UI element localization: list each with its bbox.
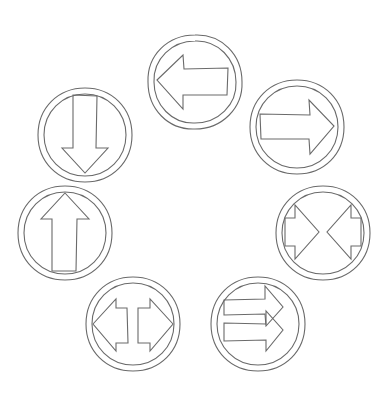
right-arrow-sign: Right arrow <box>247 77 347 177</box>
arrow-signs-diagram: Left arrow Right arrow Converging arrows… <box>0 0 390 398</box>
converging-arrows-icon <box>273 183 373 283</box>
up-arrow-icon <box>15 183 115 283</box>
down-arrow-sign: Down arrow <box>35 85 135 185</box>
double-right-arrows-sign: Two right arrows <box>208 274 308 374</box>
diverging-arrows-sign: Diverging arrows <box>83 274 183 374</box>
left-arrow-icon <box>145 32 245 132</box>
double-right-arrows-icon <box>208 274 308 374</box>
down-arrow-icon <box>35 85 135 185</box>
right-arrow-icon <box>247 77 347 177</box>
diverging-arrows-icon <box>83 274 183 374</box>
up-arrow-sign: Up arrow <box>15 183 115 283</box>
converging-arrows-sign: Converging arrows <box>273 183 373 283</box>
left-arrow-sign: Left arrow <box>145 32 245 132</box>
